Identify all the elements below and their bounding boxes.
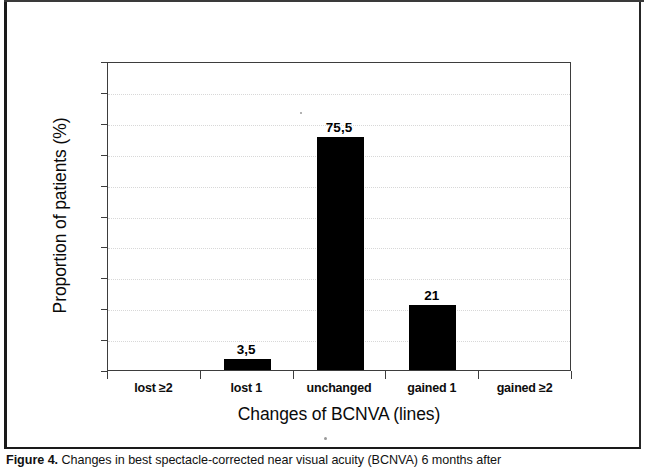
x-axis-tick [200,371,201,379]
y-axis-tick [101,62,108,63]
x-axis-tick [571,371,572,379]
y-axis-tick [101,340,108,341]
bar-chart: Proportion of patients (%) 0102030405060… [0,0,645,449]
bar [224,359,271,370]
x-axis-tick [107,371,108,379]
y-axis-tick [101,155,108,156]
bar [409,305,456,370]
scan-speck [300,112,302,114]
y-axis-title: Proportion of patients (%) [50,66,71,366]
x-axis-tick-label: lost ≥2 [107,381,200,395]
figure-caption-label: Figure 4. [6,453,58,467]
y-axis-tick [101,309,108,310]
bar-value-label: 21 [392,288,472,303]
plot-area [107,62,571,371]
scan-speck [324,437,327,440]
gridline [108,94,570,96]
y-axis-tick [101,186,108,187]
x-axis-tick-label: gained 1 [385,381,478,395]
y-axis-tick [101,124,108,125]
y-axis-tick [101,93,108,94]
y-axis-tick [101,217,108,218]
x-axis-tick [385,371,386,379]
y-axis-tick [101,278,108,279]
bar [317,137,364,370]
x-axis-tick-label: lost 1 [200,381,293,395]
bar-value-label: 75,5 [299,120,379,135]
figure-caption-text: Changes in best spectacle-corrected near… [58,453,501,467]
y-axis-tick [101,247,108,248]
x-axis-title: Changes of BCNVA (lines) [107,404,571,425]
x-axis-tick-label: unchanged [293,381,386,395]
x-axis-tick-label: gained ≥2 [478,381,571,395]
x-axis-tick [478,371,479,379]
x-axis-tick [293,371,294,379]
bar-value-label: 3,5 [206,342,286,357]
figure-caption: Figure 4. Changes in best spectacle-corr… [6,452,642,470]
